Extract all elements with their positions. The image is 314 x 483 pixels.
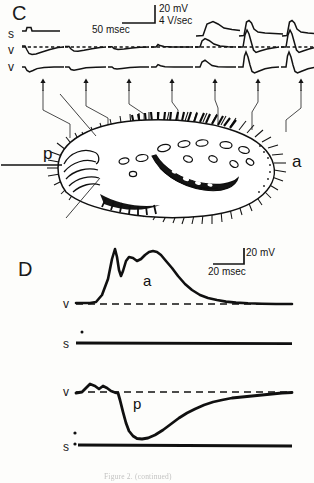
panel-d-a-stimulus-trace	[76, 328, 296, 348]
panel-d-a-voltage-label: v	[63, 297, 69, 311]
figure-2-continued: C s v v 20 mV 4 V/sec 50 msec	[0, 0, 314, 483]
cell-anterior-label: a	[292, 152, 301, 172]
panel-c-scale-voltage: 20 mV	[159, 3, 188, 14]
panel-d-a-stimulus-label: s	[63, 337, 69, 351]
posterior-pointer	[0, 160, 64, 170]
panel-c-traces	[20, 20, 314, 82]
panel-d-a-signal	[76, 249, 292, 304]
panel-d-label: D	[18, 258, 33, 281]
cell-pointer-strokes	[56, 92, 156, 220]
cell-posterior-label: p	[43, 144, 52, 164]
panel-c-row-s	[22, 28, 60, 32]
panel-c-trace-label-v1: v	[8, 43, 14, 57]
panel-c-row-s-anterior	[196, 21, 314, 37]
panel-d-p-voltage-label: v	[63, 385, 69, 399]
panel-d-p-stimulus-label: s	[63, 440, 69, 454]
panel-c-trace-label-s: s	[8, 27, 14, 41]
panel-d-trace-a	[76, 243, 296, 313]
panel-c-trace-label-v2: v	[8, 60, 14, 74]
figure-caption: Figure 2. (continued)	[104, 472, 172, 481]
panel-c-row-dvdt	[22, 52, 314, 73]
panel-d-p-stimulus-trace	[70, 430, 296, 452]
